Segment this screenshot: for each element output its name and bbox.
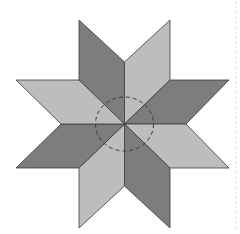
star-svg <box>0 0 240 234</box>
rhombi-group <box>16 20 229 228</box>
star-diagram <box>0 0 240 234</box>
